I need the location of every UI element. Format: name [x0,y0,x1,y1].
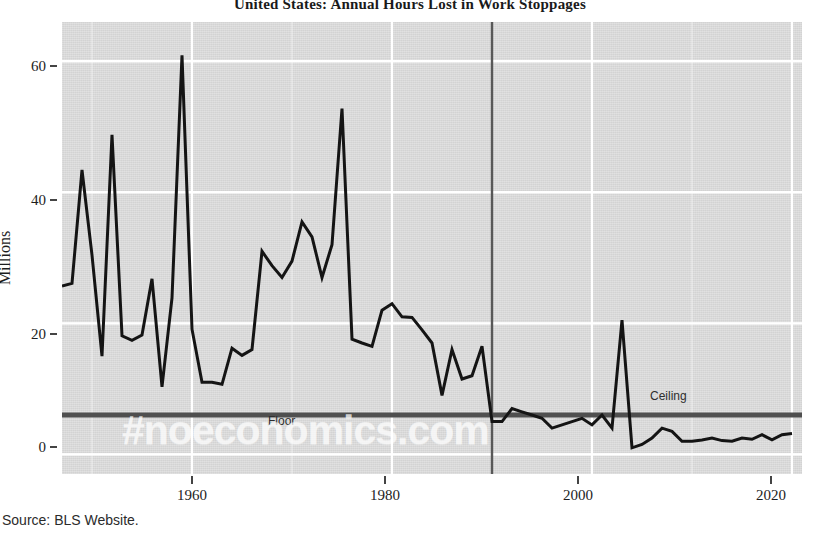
plot-area: Ceiling Floor #noeconomics.com [62,22,802,474]
y-tick-label-40: 40 [0,192,46,209]
x-tick-label-1960: 1960 [177,487,207,504]
x-tick-mark-2020 [770,476,772,484]
x-tick-mark-1960 [191,476,193,484]
x-tick-mark-2000 [577,476,579,484]
x-tick-label-2020: 2020 [756,487,786,504]
annotation-ceiling: Ceiling [650,389,687,403]
source-caption: Source: BLS Website. [2,512,139,528]
x-tick-mark-1980 [384,476,386,484]
x-tick-label-2000: 2000 [563,487,593,504]
y-tick-label-60: 60 [0,58,46,75]
plot-svg [62,22,802,474]
y-tick-mark-60 [50,65,57,67]
y-axis-title: Millions [0,231,14,285]
y-tick-mark-40 [50,199,57,201]
annotation-floor: Floor [268,414,295,428]
chart-title: United States: Annual Hours Lost in Work… [0,0,820,13]
chart-root: United States: Annual Hours Lost in Work… [0,0,820,540]
y-tick-label-20: 20 [0,326,46,343]
x-tick-label-1980: 1980 [370,487,400,504]
y-tick-mark-0 [50,446,57,448]
y-tick-mark-20 [50,333,57,335]
y-tick-label-0: 0 [0,439,46,456]
